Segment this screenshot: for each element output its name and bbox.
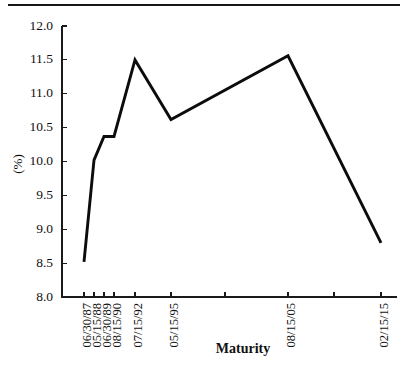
y-tick-label: 8.5 bbox=[36, 255, 53, 270]
yield-curve-chart: 8.08.59.09.510.010.511.011.512.0 06/30/8… bbox=[0, 0, 405, 376]
y-tick-label: 8.0 bbox=[36, 289, 53, 304]
data-series-line bbox=[84, 56, 381, 262]
axis-lines bbox=[62, 26, 397, 297]
x-tick-label: 02/15/15 bbox=[377, 303, 391, 347]
x-axis-tick-marks bbox=[84, 292, 381, 297]
x-tick-label: 08/15/90 bbox=[110, 303, 124, 347]
x-axis-title: Maturity bbox=[216, 341, 270, 356]
y-axis-tick-marks bbox=[62, 26, 67, 297]
y-tick-label: 10.5 bbox=[29, 119, 53, 134]
y-tick-label: 11.0 bbox=[30, 85, 53, 100]
y-axis-title: (%) bbox=[10, 154, 25, 174]
x-tick-label: 08/15/05 bbox=[284, 303, 298, 347]
y-axis-tick-labels: 8.08.59.09.510.010.511.011.512.0 bbox=[29, 18, 53, 304]
x-tick-label: 07/15/92 bbox=[131, 303, 145, 347]
y-tick-label: 9.5 bbox=[36, 187, 53, 202]
y-tick-label: 9.0 bbox=[36, 221, 53, 236]
y-tick-label: 11.5 bbox=[30, 51, 53, 66]
y-tick-label: 10.0 bbox=[29, 153, 53, 168]
y-tick-label: 12.0 bbox=[29, 18, 53, 33]
figure-container: 8.08.59.09.510.010.511.011.512.0 06/30/8… bbox=[0, 0, 405, 376]
x-tick-label: 05/15/95 bbox=[167, 303, 181, 347]
